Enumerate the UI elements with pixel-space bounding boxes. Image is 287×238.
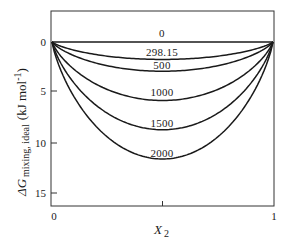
y-tick-label: 5 xyxy=(41,85,47,97)
curve-label-2000: 2000 xyxy=(150,147,173,159)
x-tick-label: 0 xyxy=(51,210,57,222)
curve-label-298: 298.15 xyxy=(146,46,178,58)
chart: 0 5 10 15 0 1 X2 ΔGmixing, ideal(kJ mol-… xyxy=(0,0,287,238)
x-axis: 0 1 xyxy=(51,201,277,222)
curve-labels: 0 298.15 500 1000 1500 2000 xyxy=(146,27,178,159)
y-tick-label: 0 xyxy=(41,36,47,48)
x-tick-label: 1 xyxy=(271,210,277,222)
y-axis-title: ΔGmixing, ideal(kJ mol-1) xyxy=(12,68,31,197)
x-axis-title: X2 xyxy=(153,222,169,238)
curve-label-500: 500 xyxy=(153,59,171,71)
y-tick-label: 10 xyxy=(35,137,47,149)
curve-label-0: 0 xyxy=(159,27,165,39)
curve-label-1000: 1000 xyxy=(150,86,173,98)
plot-frame xyxy=(51,11,274,206)
y-axis: 0 5 10 15 xyxy=(35,36,57,199)
y-tick-label: 15 xyxy=(35,187,47,199)
curve-label-1500: 1500 xyxy=(150,117,173,129)
